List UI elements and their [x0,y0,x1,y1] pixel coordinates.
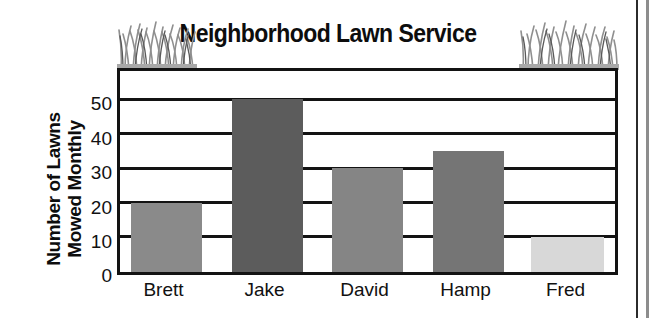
bar-hamp[interactable] [433,151,504,272]
plot-area [117,68,618,275]
gridline-50 [120,98,615,101]
x-tick-label-jake: Jake [224,279,305,301]
y-tick-label-40: 40 [78,129,112,148]
bar-brett[interactable] [131,203,202,272]
bar-fred[interactable] [531,237,604,272]
grass-tuft-icon-left [117,16,197,70]
plot-inner [120,71,615,272]
y-tick-label-20: 20 [78,198,112,217]
grass-tuft-icon-right [519,16,619,70]
y-tick-label-30: 30 [78,163,112,182]
y-axis-tick-labels: 50 40 30 20 10 0 [74,0,112,318]
x-tick-label-david: David [324,279,405,301]
page-border-line [636,0,638,318]
page-border-shadow [646,0,649,318]
y-tick-label-50: 50 [78,94,112,113]
y-tick-label-0: 0 [78,266,112,285]
x-tick-label-fred: Fred [525,279,606,301]
x-tick-label-brett: Brett [123,279,204,301]
y-axis-title-line-1: Number of Lawns [43,82,64,297]
bar-david[interactable] [332,168,403,272]
x-axis-tick-labels: Brett Jake David Hamp Fred [117,279,618,309]
gridline-40 [120,132,615,135]
x-tick-label-hamp: Hamp [425,279,506,301]
bar-jake[interactable] [232,99,303,272]
y-tick-label-10: 10 [78,232,112,251]
